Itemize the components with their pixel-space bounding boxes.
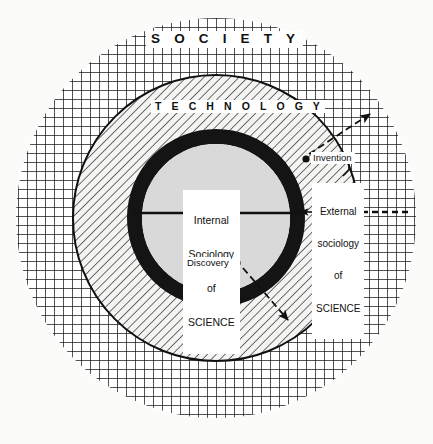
internal-sociology-line-1: Internal (188, 215, 235, 226)
invention-dot (302, 155, 309, 162)
internal-sociology-label: Internal Sociology of SCIENCE (183, 190, 240, 354)
internal-sociology-line-3: of (188, 283, 235, 294)
invention-label: Invention (311, 152, 355, 164)
external-sociology-line-1: External (316, 207, 360, 218)
external-sociology-line-2: sociology (316, 239, 360, 250)
internal-sociology-line-4: SCIENCE (188, 317, 235, 328)
technology-label: T E C H N O L O G Y (151, 100, 325, 113)
society-label: S O C I E T Y (146, 31, 303, 48)
external-sociology-label: External sociology of SCIENCE (312, 183, 364, 339)
external-sociology-line-4: SCIENCE (316, 304, 360, 315)
figure-canvas: S O C I E T Y T E C H N O L O G Y Intern… (0, 0, 433, 444)
external-sociology-line-3: of (316, 271, 360, 282)
discovery-label: Discovery (184, 257, 231, 269)
